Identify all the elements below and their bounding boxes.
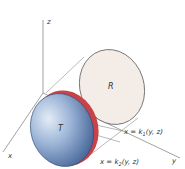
- x-axis-label: x: [7, 152, 13, 160]
- surface-k2-label: x = k2(y, z): [99, 158, 139, 167]
- y-axis-label: y: [171, 157, 177, 165]
- surface-k1-label: x = k1(y, z): [123, 128, 163, 137]
- projection-line-top: [46, 57, 84, 93]
- region-R-label: R: [108, 82, 114, 91]
- solid-region-diagram: R T z x y x = k1(y, z) x = k2(y, z): [0, 0, 185, 169]
- z-axis-label: z: [46, 18, 51, 26]
- projection-line-mid1: [96, 125, 123, 131]
